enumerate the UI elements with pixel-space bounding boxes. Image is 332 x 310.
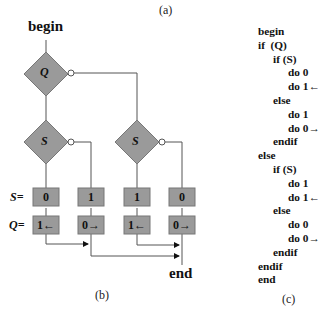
code-line: do 0→ <box>258 122 320 136</box>
s-value-box: 0 <box>33 190 59 205</box>
caption-b: (b) <box>95 288 109 303</box>
code-line: do 1← <box>258 191 320 205</box>
code-line: do 1← <box>258 80 320 94</box>
decision-s-left-label: S <box>41 134 48 149</box>
code-line: do 1 <box>258 177 320 191</box>
code-line: begin <box>258 25 320 39</box>
q-value-box: 1← <box>124 218 150 233</box>
code-line: else <box>258 94 320 108</box>
caption-c: (c) <box>282 292 295 307</box>
decision-q-label: Q <box>40 65 49 80</box>
code-line: if (S) <box>258 53 320 67</box>
s-value-box: 0 <box>169 190 195 205</box>
code-line: end <box>258 273 320 287</box>
begin-label: begin <box>28 18 63 35</box>
code-line: do 0 <box>258 66 320 80</box>
q-row-label: Q= <box>9 218 25 233</box>
code-line: endif <box>258 135 320 149</box>
code-line: do 0 <box>258 218 320 232</box>
code-line: endif <box>258 246 320 260</box>
code-line: else <box>258 149 320 163</box>
q-value-box: 0→ <box>169 218 195 233</box>
caption-a: (a) <box>159 3 172 18</box>
code-line: else <box>258 204 320 218</box>
end-label: end <box>169 265 192 282</box>
s-row-label: S= <box>10 190 24 205</box>
code-line: if (S) <box>258 163 320 177</box>
code-line: endif <box>258 260 320 274</box>
s-value-box: 1 <box>78 190 104 205</box>
q-value-box: 0→ <box>78 218 104 233</box>
code-line: if (Q) <box>258 39 320 53</box>
s-value-box: 1 <box>124 190 150 205</box>
code-line: do 0→ <box>258 232 320 246</box>
q-value-box: 1← <box>33 218 59 233</box>
code-line: do 1 <box>258 108 320 122</box>
decision-s-right-label: S <box>132 134 139 149</box>
pseudocode-listing: beginif (Q)if (S)do 0do 1←elsedo 1do 0→e… <box>258 25 320 287</box>
